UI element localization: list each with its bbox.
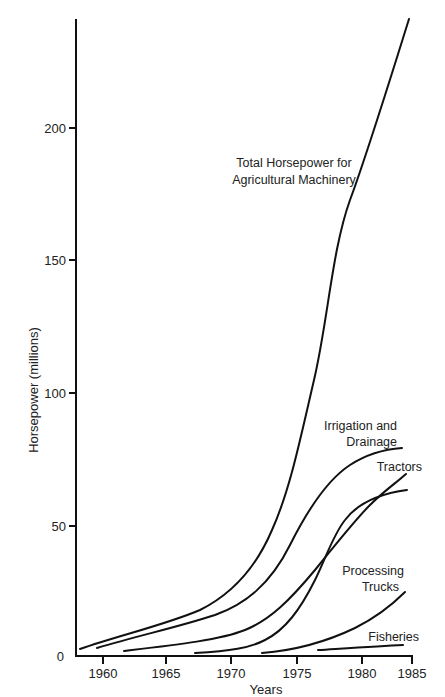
y-ticks: 200 150 100 50 0 [44, 121, 76, 664]
y-tick-label: 0 [57, 649, 64, 664]
label-tractors: Tractors [377, 460, 422, 474]
x-tick-label: 1980 [348, 666, 377, 681]
x-axis-title: Years [250, 682, 283, 697]
series-total-horsepower [80, 19, 409, 649]
x-tick-label: 1970 [217, 666, 246, 681]
label-total-line1: Total Horsepower for [236, 156, 351, 170]
line-chart: 200 150 100 50 0 1960 1965 1970 1975 198… [0, 0, 445, 697]
x-ticks: 1960 1965 1970 1975 1980 1985 [89, 656, 427, 681]
series-irrigation-drainage [97, 448, 402, 648]
label-trucks: Trucks [362, 580, 399, 594]
y-tick-label: 200 [44, 121, 66, 136]
y-tick-label: 150 [44, 253, 66, 268]
x-tick-label: 1960 [89, 666, 118, 681]
y-tick-label: 100 [44, 386, 66, 401]
x-tick-label: 1985 [398, 666, 427, 681]
label-processing: Processing [342, 564, 404, 578]
label-irrigation-line1: Irrigation and [324, 419, 397, 433]
x-tick-label: 1965 [152, 666, 181, 681]
label-total-line2: Agricultural Machinery [232, 173, 356, 187]
y-tick-label: 50 [52, 519, 66, 534]
label-fisheries: Fisheries [368, 630, 419, 644]
label-irrigation-line2: Drainage [346, 435, 397, 449]
x-tick-label: 1975 [283, 666, 312, 681]
series-fisheries [318, 645, 403, 650]
y-axis-title: Horsepower (millions) [26, 327, 41, 453]
